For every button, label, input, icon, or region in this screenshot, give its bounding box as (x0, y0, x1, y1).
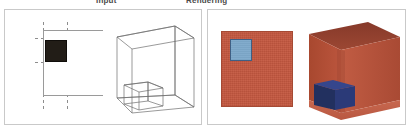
rendered-flat-view (211, 13, 305, 123)
wireframe-room-schematic (101, 12, 201, 124)
inner-box-bottom-right-edge (139, 106, 163, 110)
plan-view-schematic (7, 12, 103, 124)
room-ceiling (117, 26, 194, 49)
schematic-panel (4, 9, 202, 125)
rendered-cube-svg (303, 12, 405, 124)
caption-label-input: Input (96, 0, 117, 5)
caption-row: Input Rendering (0, 0, 410, 7)
rendered-wall-terracotta (221, 31, 293, 107)
room-floor (117, 95, 194, 113)
room-right-wall (175, 26, 194, 107)
inner-box-left-face (124, 82, 148, 104)
inner-box-front-face-rendered (335, 86, 355, 110)
wireframe-room-svg (101, 12, 201, 124)
room-back-wall (117, 26, 175, 98)
caption-strip: Input Rendering (0, 0, 410, 7)
figure-root: Input Rendering (0, 0, 410, 128)
rendered-window-blue (230, 39, 252, 61)
inner-box-rendered (314, 80, 355, 110)
caption-label-rendering: Rendering (186, 0, 227, 5)
plan-block-dark (45, 40, 67, 62)
inner-box-top-face (124, 82, 163, 92)
rendered-panel (207, 9, 406, 125)
inner-box-right-face (148, 82, 163, 106)
rendered-cube-view (303, 12, 405, 124)
